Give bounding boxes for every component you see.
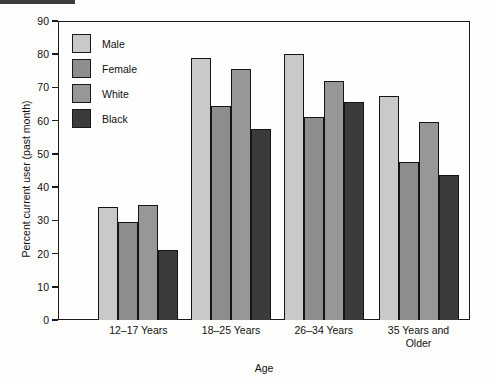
y-tick-label: 40 [37, 180, 49, 194]
bar [439, 175, 459, 320]
bar-group [379, 21, 459, 320]
bar [344, 102, 364, 320]
legend-swatch-icon [72, 84, 91, 103]
y-tick-label: 50 [37, 147, 49, 161]
legend-swatch-icon [72, 109, 91, 128]
bar [324, 81, 344, 320]
bar [191, 58, 211, 320]
legend-label: Male [102, 38, 125, 50]
y-tick-label: 70 [37, 80, 49, 94]
chart-page: Percent current user (past month) 010203… [0, 0, 489, 382]
bar [251, 129, 271, 320]
bar-group [191, 21, 271, 320]
y-tick-label: 60 [37, 114, 49, 128]
bar-group [284, 21, 364, 320]
legend-item-male: Male [72, 31, 182, 56]
bar [419, 122, 439, 320]
x-axis-labels: 12–17 Years18–25 Years26–34 Years35 Year… [58, 324, 470, 358]
y-tick-label: 90 [37, 14, 49, 28]
bar [304, 117, 324, 320]
y-tick-label: 0 [43, 313, 49, 327]
y-tick-label: 30 [37, 213, 49, 227]
x-axis-tick-label: 35 Years andOlder [359, 324, 479, 350]
bar [231, 69, 251, 320]
x-axis-tick-label-line: Older [359, 337, 479, 350]
x-axis-tick-label-line: 35 Years and [359, 324, 479, 337]
bar [399, 162, 419, 320]
bar [158, 250, 178, 320]
legend-swatch-icon [72, 59, 91, 78]
x-axis-title: Age [58, 362, 470, 374]
bar [98, 207, 118, 320]
legend-item-white: White [72, 81, 182, 106]
bar [211, 106, 231, 320]
scan-artifact [0, 0, 75, 4]
y-tick-label: 10 [37, 280, 49, 294]
legend-item-female: Female [72, 56, 182, 81]
bar [379, 96, 399, 320]
bar [118, 222, 138, 320]
bar [284, 54, 304, 320]
legend-item-black: Black [72, 106, 182, 131]
legend-label: Black [102, 113, 128, 125]
y-axis: Percent current user (past month) 010203… [0, 21, 58, 320]
bar [138, 205, 158, 320]
legend-label: White [102, 88, 129, 100]
legend-swatch-icon [72, 34, 91, 53]
y-tick-label: 80 [37, 47, 49, 61]
legend: MaleFemaleWhiteBlack [72, 31, 182, 131]
legend-label: Female [102, 63, 137, 75]
y-tick-label: 20 [37, 247, 49, 261]
y-axis-title: Percent current user (past month) [20, 69, 32, 289]
